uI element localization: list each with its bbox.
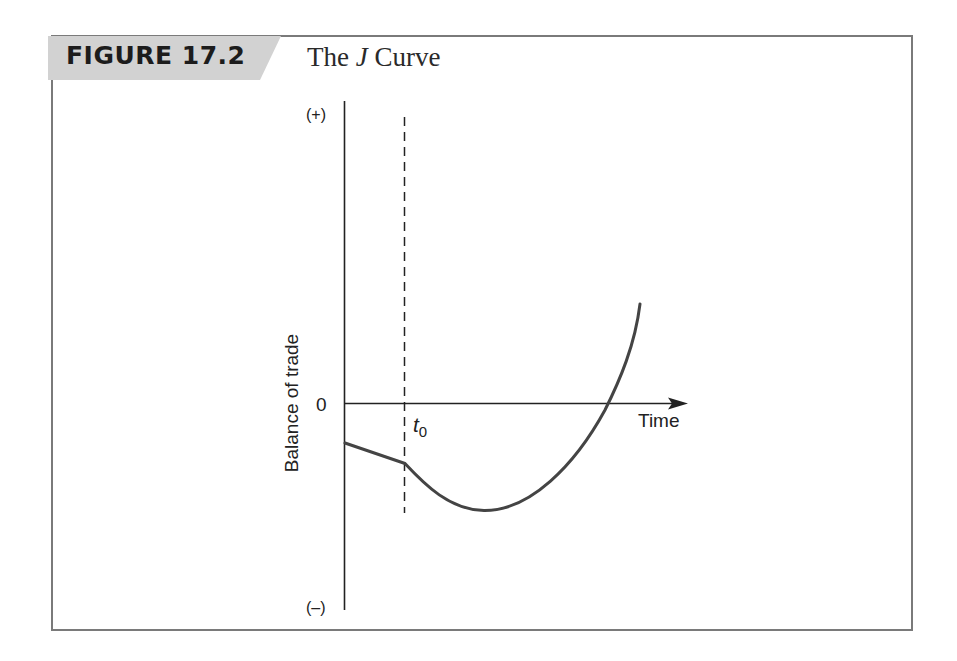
t0-label-sub: 0 bbox=[419, 423, 427, 440]
y-top-marker: (+) bbox=[306, 106, 326, 123]
j-curve-line bbox=[345, 304, 640, 511]
x-axis-label: Time bbox=[638, 410, 680, 431]
zero-label: 0 bbox=[316, 394, 327, 415]
y-axis-label: Balance of trade bbox=[281, 334, 302, 472]
j-curve-chart: (+) (–) 0 Time Balance of trade t0 bbox=[0, 0, 957, 661]
t0-label: t0 bbox=[413, 413, 427, 440]
y-bottom-marker: (–) bbox=[306, 599, 326, 616]
